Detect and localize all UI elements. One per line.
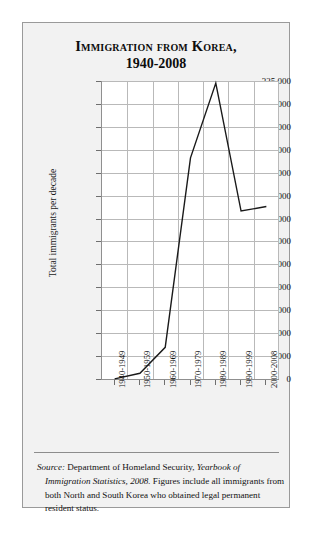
x-axis-tick-mark bbox=[215, 380, 216, 385]
x-axis-tick-mark bbox=[240, 380, 241, 385]
chart-area: Total immigrants per decade 325,000300,0… bbox=[23, 23, 291, 447]
x-axis-tick-label: 1940-1949 bbox=[117, 351, 127, 388]
caption-source-word: Source: bbox=[37, 462, 65, 472]
x-axis-tick-label: 1950-1959 bbox=[142, 351, 152, 388]
x-axis-tick-label: 1980-1989 bbox=[218, 351, 228, 388]
x-axis-tick-mark bbox=[114, 380, 115, 385]
x-axis-tick-label: 2000-2008 bbox=[269, 351, 279, 388]
caption-source-body: Department of Homeland Security, bbox=[65, 462, 197, 472]
figure-panel: Immigration from Korea, 1940-2008 Total … bbox=[22, 22, 290, 508]
x-axis-tick-mark bbox=[139, 380, 140, 385]
caption-divider bbox=[34, 452, 279, 453]
plot-area bbox=[101, 81, 279, 380]
x-axis-tick-mark bbox=[190, 380, 191, 385]
source-caption: Source: Department of Homeland Security,… bbox=[37, 461, 286, 516]
y-axis-title: Total immigrants per decade bbox=[48, 113, 58, 333]
x-axis-tick-label: 1990-1999 bbox=[244, 351, 254, 388]
x-axis-tick-mark bbox=[265, 380, 266, 385]
x-axis-tick-label: 1970-1979 bbox=[193, 351, 203, 388]
x-axis-tick-label: 1960-1969 bbox=[168, 351, 178, 388]
line-series bbox=[102, 81, 279, 379]
x-axis-tick-mark bbox=[164, 380, 165, 385]
